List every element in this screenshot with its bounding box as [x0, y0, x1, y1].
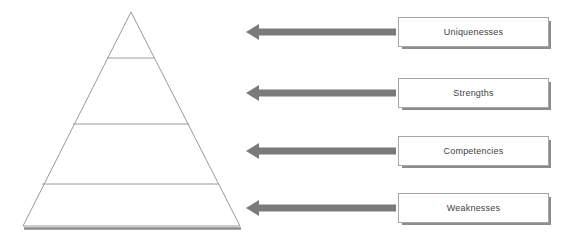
- callout-row: Uniquenesses: [0, 15, 561, 49]
- callout-row: Strengths: [0, 76, 561, 110]
- callout-box[interactable]: Competencies: [398, 136, 549, 166]
- callout-label: Strengths: [453, 88, 493, 98]
- callout-label: Weaknesses: [447, 203, 500, 213]
- arrow-left-icon: [244, 134, 398, 168]
- arrow-left-icon: [244, 191, 398, 225]
- arrow-left-icon: [244, 15, 398, 49]
- callout-label: Competencies: [444, 146, 504, 156]
- callout-box[interactable]: Weaknesses: [398, 193, 549, 223]
- callout-row: Weaknesses: [0, 191, 561, 225]
- callout-box[interactable]: Strengths: [398, 78, 549, 108]
- diagram-canvas: Uniquenesses Strengths Competencies Weak…: [0, 0, 561, 238]
- callout-box[interactable]: Uniquenesses: [398, 17, 549, 47]
- callout-label: Uniquenesses: [444, 27, 503, 37]
- arrow-left-icon: [244, 76, 398, 110]
- callout-row: Competencies: [0, 134, 561, 168]
